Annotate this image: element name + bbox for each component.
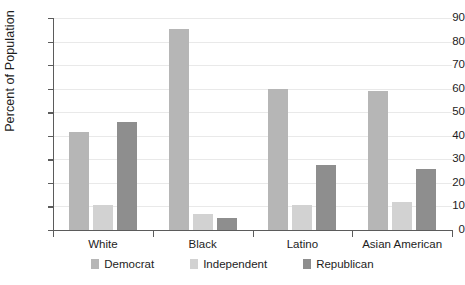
legend-item-independent[interactable]: Independent	[190, 258, 267, 270]
y-tick-label: 70	[419, 59, 465, 71]
y-tick-label: 60	[419, 83, 465, 95]
y-tick-label: 50	[419, 106, 465, 118]
legend-item-democrat[interactable]: Democrat	[91, 258, 154, 270]
x-tick-mark	[452, 230, 453, 237]
y-tick-mark	[48, 18, 53, 19]
y-tick-label: 40	[419, 130, 465, 142]
legend-item-republican[interactable]: Republican	[303, 258, 374, 270]
y-tick-mark	[48, 206, 53, 207]
gridline	[53, 18, 452, 19]
bar-white-republican	[117, 122, 137, 230]
bar-latino-independent	[292, 205, 312, 230]
bar-latino-democrat	[268, 89, 288, 230]
legend-swatch-icon	[91, 259, 99, 269]
legend-label: Republican	[316, 258, 374, 270]
bar-black-independent	[193, 214, 213, 230]
y-axis-title: Percent of Population	[3, 0, 17, 177]
legend-swatch-icon	[303, 259, 311, 269]
legend-label: Democrat	[104, 258, 154, 270]
plot-area	[53, 18, 452, 230]
x-tick-mark	[53, 230, 54, 237]
y-tick-mark	[48, 183, 53, 184]
y-tick-mark	[48, 89, 53, 90]
gridline	[53, 112, 452, 113]
y-tick-mark	[48, 136, 53, 137]
x-tick-label: Asian American	[342, 238, 462, 250]
y-tick-label: 30	[419, 153, 465, 165]
bar-asian-american-republican	[416, 169, 436, 230]
gridline	[53, 159, 452, 160]
bar-asian-american-independent	[392, 202, 412, 230]
gridline	[53, 136, 452, 137]
bar-chart: Percent of Population 010203040506070809…	[0, 0, 465, 285]
gridline	[53, 42, 452, 43]
y-tick-mark	[48, 42, 53, 43]
gridline	[53, 65, 452, 66]
y-tick-mark	[48, 112, 53, 113]
y-axis-line	[53, 18, 54, 231]
gridline	[53, 89, 452, 90]
y-tick-mark	[48, 159, 53, 160]
x-tick-mark	[153, 230, 154, 237]
y-tick-label: 90	[419, 12, 465, 24]
bar-latino-republican	[316, 165, 336, 230]
x-tick-mark	[352, 230, 353, 237]
x-tick-mark	[253, 230, 254, 237]
bar-white-independent	[93, 205, 113, 230]
bar-black-republican	[217, 218, 237, 230]
y-tick-label: 80	[419, 36, 465, 48]
legend-label: Independent	[203, 258, 267, 270]
y-tick-mark	[48, 65, 53, 66]
bar-black-democrat	[169, 29, 189, 230]
gridline	[53, 183, 452, 184]
bar-asian-american-democrat	[368, 91, 388, 230]
bar-white-democrat	[69, 132, 89, 230]
chart-legend: DemocratIndependentRepublican	[0, 258, 465, 270]
legend-swatch-icon	[190, 259, 198, 269]
